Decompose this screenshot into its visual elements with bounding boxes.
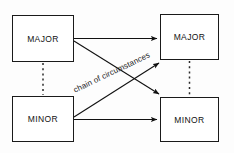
node-minor-left[interactable]: MINOR (12, 96, 74, 142)
node-minor-left-label: MINOR (28, 114, 58, 124)
node-major-right-label: MAJOR (174, 32, 206, 42)
node-minor-right-label: MINOR (174, 115, 204, 125)
node-major-left-label: MAJOR (27, 34, 59, 44)
node-major-right[interactable]: MAJOR (160, 14, 219, 60)
diagram-canvas: MAJOR MAJOR MINOR MINOR chain of circums… (0, 0, 234, 153)
node-major-left[interactable]: MAJOR (12, 15, 74, 62)
node-minor-right[interactable]: MINOR (160, 97, 219, 142)
